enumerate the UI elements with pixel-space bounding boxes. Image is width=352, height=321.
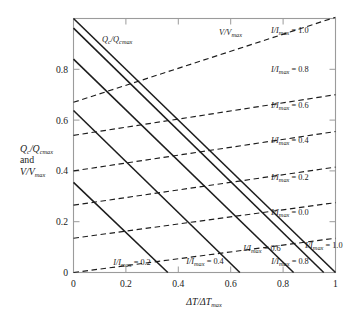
x-axis-title: ΔT/ΔTmax [185,296,222,308]
qc-curve-i08 [74,28,324,272]
y-tick-label-04: 0.4 [56,165,68,176]
x-axis-ticks-top [126,19,283,25]
annotation-bottom-i02: I/Imax = 0.2 [112,258,151,268]
qc-curve-i04 [74,110,240,272]
y-axis-ticks-right [330,69,336,221]
x-tick-labels: 0 0.2 0.4 0.6 0.8 1 [71,278,338,289]
right-annotations: I/Imax = 1.0 I/Imax = 0.8 I/Imax = 0.6 I… [270,26,309,218]
annotation-right-i04: I/Imax = 0.4 [270,136,309,146]
y-tick-label-06: 0.6 [56,115,68,126]
annotation-right-i00: I/Imax = 0.0 [270,208,309,218]
x-tick-label-02: 0.2 [120,278,132,289]
qc-qcmax-curve-group [74,19,336,273]
x-tick-label-06: 0.6 [225,278,237,289]
y-tick-label-02: 0.2 [56,216,68,227]
y-tick-label-08: 0.8 [56,64,68,75]
x-tick-label-0: 0 [71,278,76,289]
x-tick-label-08: 0.8 [277,278,289,289]
qc-curve-i10 [74,19,336,273]
annotation-v-family: V/Vmax [219,28,242,38]
annotation-qc-family: Qc/Qcmax [102,35,133,45]
x-tick-label-1: 1 [333,278,338,289]
y-axis-title-line2: and [20,154,34,165]
v-curve-i00 [74,238,336,272]
annotation-right-i08: I/Imax = 0.8 [270,65,309,75]
y-tick-label-0: 0 [63,267,68,278]
qc-curve-i06 [74,59,294,272]
y-axis-title: Qc/Qcmax and V/Vmax [20,143,53,178]
annotation-right-i02: I/Imax = 0.2 [270,173,309,183]
bottom-annotations: I/Imax = 0.2 I/Imax = 0.4 I/Imax = 0.6 I… [112,241,342,268]
annotation-bottom-i04: I/Imax = 0.4 [185,257,224,267]
annotation-right-i10: I/Imax = 1.0 [270,26,309,36]
y-tick-labels: 0 0.2 0.4 0.6 0.8 [56,64,68,278]
annotation-bottom-i10: I/Imax = 1.0 [304,241,343,251]
annotation-bottom-i08: I/Imax = 0.8 [270,257,309,267]
annotation-right-i06: I/Imax = 0.6 [270,101,309,111]
x-tick-label-04: 0.4 [172,278,184,289]
y-axis-title-line3: V/Vmax [20,166,45,178]
annotation-bottom-i06: I/Imax = 0.6 [242,244,281,254]
chart-figure: Qc/Qcmax and V/Vmax 0 0.2 0.4 0.6 0.8 0 … [0,0,352,321]
chart-svg: Qc/Qcmax and V/Vmax 0 0.2 0.4 0.6 0.8 0 … [0,0,352,321]
